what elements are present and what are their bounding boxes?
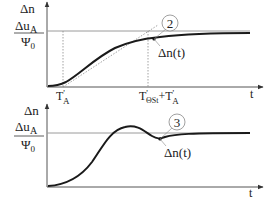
top-x-label: t <box>250 87 254 101</box>
bottom-ref-numerator: ΔuA <box>15 119 38 136</box>
bottom-curve-label: Δn(t) <box>164 145 191 160</box>
top-callout-number: 2 <box>167 16 174 31</box>
top-ref-denominator: Ψ0 <box>21 34 36 51</box>
bottom-y-label: Δn <box>24 103 39 118</box>
top-y-label: Δn <box>20 1 35 16</box>
top-ref-numerator: ΔuA <box>15 18 38 35</box>
bottom-plot: 3 Δn(t) Δn ΔuA Ψ0 t <box>14 103 263 199</box>
bottom-callout-number: 3 <box>174 115 181 130</box>
bottom-response-curve <box>48 126 250 186</box>
step-response-diagram: 2 Δn(t) Δn ΔuA Ψ0 T'A T'ΘSt+T'A t 3 Δn(t… <box>0 0 276 199</box>
top-response-curve <box>48 33 250 86</box>
tangent-line <box>63 25 158 87</box>
bottom-ref-denominator: Ψ0 <box>21 137 36 154</box>
top-tick-TSt-plus-TA: T'ΘSt+T'A <box>139 88 179 106</box>
top-plot: 2 Δn(t) Δn ΔuA Ψ0 T'A T'ΘSt+T'A t <box>14 1 263 106</box>
top-curve-label: Δn(t) <box>158 45 185 60</box>
bottom-x-label: t <box>249 186 253 199</box>
top-tick-TA: T'A <box>56 88 70 106</box>
